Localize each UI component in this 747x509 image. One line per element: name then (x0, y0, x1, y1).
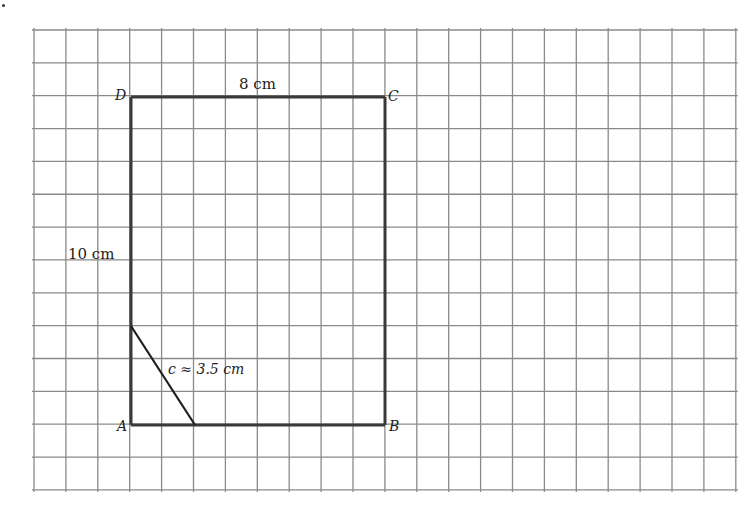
top-side-length-label: 8 cm (239, 75, 276, 93)
hypotenuse-length-label: c ≈ 3.5 cm (168, 361, 244, 377)
vertex-label-d: D (115, 87, 126, 103)
vertex-label-c: C (388, 88, 399, 104)
vertex-label-a: A (117, 418, 127, 434)
vertex-label-b: B (389, 418, 399, 434)
left-side-length-label: 10 cm (68, 245, 114, 263)
